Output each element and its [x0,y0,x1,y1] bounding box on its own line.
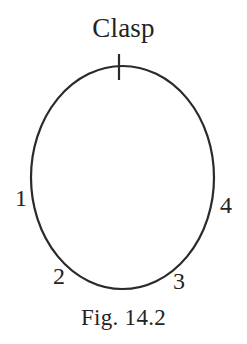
figure-container: Clasp 1 2 3 4 Fig. 14.2 [0,0,247,344]
point-label-2: 2 [53,264,65,288]
clasp-label: Clasp [0,15,247,42]
point-label-3: 3 [173,269,185,293]
necklace-oval [31,66,214,289]
point-label-1: 1 [15,186,27,210]
necklace-diagram [0,0,247,344]
point-label-4: 4 [220,193,232,217]
figure-caption: Fig. 14.2 [0,306,247,329]
